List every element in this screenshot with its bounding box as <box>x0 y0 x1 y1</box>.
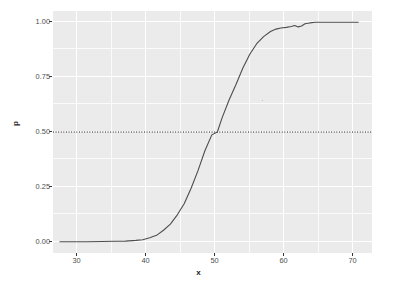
chart-container: 1.00 0.75 0.50 0.25 0.00 30 40 50 60 70 … <box>0 0 397 286</box>
x-tick-label-30: 30 <box>65 257 89 264</box>
data-series-layer <box>53 11 372 253</box>
y-axis-title: p <box>11 121 20 126</box>
y-tick-label-0.25: 0.25 <box>36 183 50 190</box>
plot-panel <box>53 11 372 253</box>
x-tick-label-40: 40 <box>134 257 158 264</box>
line-series-p <box>60 22 358 241</box>
y-tick-label-1.00: 1.00 <box>36 18 50 25</box>
x-tick-label-50: 50 <box>203 257 227 264</box>
x-tick-label-70: 70 <box>341 257 365 264</box>
y-tick-label-0.00: 0.00 <box>36 238 50 245</box>
x-axis-title: x <box>0 268 397 277</box>
x-tick-label-60: 60 <box>272 257 296 264</box>
y-tick-label-0.75: 0.75 <box>36 73 50 80</box>
y-tick-label-0.50: 0.50 <box>36 128 50 135</box>
